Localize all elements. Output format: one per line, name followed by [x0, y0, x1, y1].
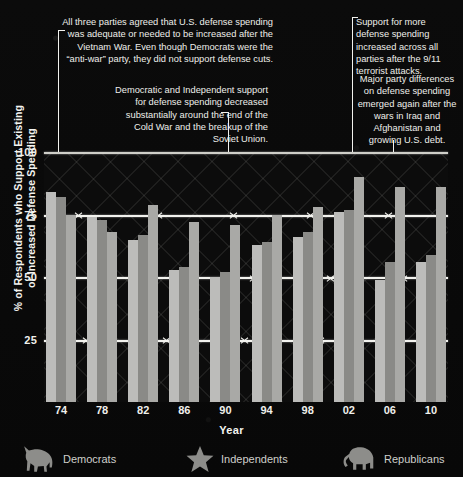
bar-group-06 — [375, 152, 405, 402]
star-icon — [186, 445, 214, 473]
donkey-icon — [22, 445, 56, 473]
annotation-cold-war-leader-horizontal — [221, 112, 229, 113]
x-tick-06: 06 — [375, 404, 405, 416]
annotation-vietnam-leader-horizontal — [58, 30, 65, 31]
x-tick-98: 98 — [293, 404, 323, 416]
bar-democrats-78[interactable] — [87, 217, 97, 402]
bar-democrats-06[interactable] — [375, 280, 385, 403]
x-axis-title: Year — [0, 424, 463, 436]
bar-democrats-98[interactable] — [293, 237, 303, 402]
x-tick-78: 78 — [87, 404, 117, 416]
bar-democrats-86[interactable] — [169, 270, 179, 403]
bar-group-90 — [210, 152, 240, 402]
bar-republicans-78[interactable] — [107, 232, 117, 402]
x-tick-90: 90 — [210, 404, 240, 416]
y-axis-title: % of Respondents who Support Existing or… — [12, 101, 38, 316]
annotation-vietnam: All three parties agreed that U.S. defen… — [60, 16, 273, 65]
bar-independents-10[interactable] — [426, 255, 436, 403]
legend-item-democrats[interactable]: Democrats — [22, 445, 116, 473]
elephant-icon — [343, 445, 377, 473]
bar-independents-94[interactable] — [262, 242, 272, 402]
legend-item-republicans[interactable]: Republicans — [343, 445, 445, 473]
legend-label-independents: Independents — [221, 453, 288, 465]
bar-democrats-74[interactable] — [46, 192, 56, 402]
bar-republicans-10[interactable] — [436, 187, 446, 402]
bar-republicans-86[interactable] — [189, 222, 199, 402]
chart-legend: Democrats Independents Republicans — [0, 440, 463, 477]
bar-independents-74[interactable] — [56, 197, 66, 402]
bar-independents-82[interactable] — [138, 235, 148, 403]
bar-independents-02[interactable] — [344, 210, 354, 403]
x-tick-82: 82 — [128, 404, 158, 416]
y-tick-25: 25 — [24, 334, 37, 346]
chart-plot-area — [44, 152, 448, 402]
bar-independents-78[interactable] — [97, 220, 107, 403]
bar-democrats-82[interactable] — [128, 240, 138, 403]
annotation-iraq-afghanistan: Major party differences on defense spend… — [356, 73, 458, 147]
legend-label-democrats: Democrats — [63, 453, 116, 465]
annotation-nine-eleven-leader-horizontal — [352, 17, 358, 18]
bar-democrats-02[interactable] — [334, 212, 344, 402]
bar-group-78 — [87, 152, 117, 402]
annotation-cold-war: Democratic and Independent support for d… — [110, 84, 268, 145]
bar-republicans-94[interactable] — [272, 215, 282, 403]
bar-republicans-90[interactable] — [230, 225, 240, 403]
legend-item-independents[interactable]: Independents — [186, 445, 288, 473]
bar-democrats-94[interactable] — [252, 245, 262, 403]
bar-group-86 — [169, 152, 199, 402]
bar-independents-98[interactable] — [303, 232, 313, 402]
bar-independents-90[interactable] — [220, 272, 230, 402]
bar-democrats-90[interactable] — [210, 277, 220, 402]
bar-groups-container — [44, 152, 448, 402]
bar-group-82 — [128, 152, 158, 402]
chart-title-cropped — [0, 0, 463, 9]
x-tick-02: 02 — [334, 404, 364, 416]
x-tick-86: 86 — [169, 404, 199, 416]
x-tick-94: 94 — [252, 404, 282, 416]
bar-republicans-74[interactable] — [66, 215, 76, 403]
bar-republicans-98[interactable] — [313, 207, 323, 402]
bar-democrats-10[interactable] — [416, 262, 426, 402]
bar-independents-86[interactable] — [179, 267, 189, 402]
annotation-nine-eleven-leader-vertical — [352, 17, 353, 169]
bar-republicans-82[interactable] — [148, 205, 158, 403]
x-tick-10: 10 — [416, 404, 446, 416]
x-tick-74: 74 — [46, 404, 76, 416]
bar-republicans-06[interactable] — [395, 187, 405, 402]
bar-group-94 — [252, 152, 282, 402]
bar-republicans-02[interactable] — [354, 177, 364, 402]
bar-group-10 — [416, 152, 446, 402]
bar-independents-06[interactable] — [385, 262, 395, 402]
bar-group-74 — [46, 152, 76, 402]
bar-group-98 — [293, 152, 323, 402]
legend-label-republicans: Republicans — [384, 453, 445, 465]
x-axis-tick-labels: 74788286909498020610 — [44, 404, 448, 416]
annotation-nine-eleven: Support for more defense spending increa… — [356, 16, 458, 77]
bar-group-02 — [334, 152, 364, 402]
